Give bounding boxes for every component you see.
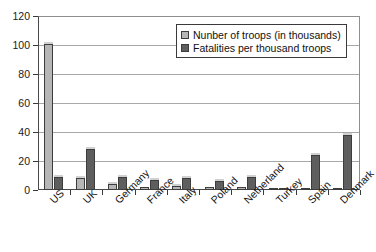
y-axis-tick-label: 20	[18, 156, 30, 166]
bar-top-cap	[108, 182, 117, 184]
y-axis: 020406080100120	[0, 0, 38, 206]
legend-item-troops: Nunber of troops (in thousands)	[181, 28, 341, 41]
bar-group	[38, 16, 70, 190]
chart-legend: Nunber of troops (in thousands) Fataliti…	[176, 24, 347, 58]
bar-top-cap	[215, 179, 224, 181]
bar-face	[86, 149, 95, 190]
bar-top-cap	[44, 42, 53, 44]
bar-top-cap	[182, 176, 191, 178]
bar-top-cap	[247, 175, 256, 177]
legend-label-troops: Nunber of troops (in thousands)	[193, 29, 341, 41]
x-axis-tick	[70, 190, 71, 195]
bar-top-cap	[343, 133, 352, 135]
bar-top-cap	[118, 175, 127, 177]
x-axis-tick	[102, 190, 103, 195]
y-axis-tick-label: 80	[18, 69, 30, 79]
bar-top-cap	[150, 178, 159, 180]
bar-top-cap	[54, 175, 63, 177]
dark-gray-swatch-icon	[181, 44, 189, 52]
bar-face	[76, 178, 85, 190]
bar-top-cap	[311, 153, 320, 155]
x-axis-labels: USUKGermanyFranceItalyPolandNetherlandTu…	[0, 196, 365, 252]
legend-label-fatalities: Fatalities per thousand troops	[193, 42, 331, 54]
bar-top-cap	[76, 176, 85, 178]
bar-group	[70, 16, 102, 190]
bar-group	[135, 16, 167, 190]
bar-troops	[76, 178, 85, 190]
y-axis-tick-label: 100	[12, 40, 30, 50]
bar-fatalities	[86, 149, 95, 190]
y-axis-tick-label: 40	[18, 127, 30, 137]
bar-troops	[44, 44, 53, 190]
x-axis-tick	[199, 190, 200, 195]
bar-face	[44, 44, 53, 190]
bar-group	[102, 16, 134, 190]
y-axis-tick-label: 120	[12, 11, 30, 21]
light-gray-swatch-icon	[181, 31, 189, 39]
y-axis-tick-label: 60	[18, 98, 30, 108]
y-axis-tick-label: 0	[24, 185, 30, 195]
legend-item-fatalities: Fatalities per thousand troops	[181, 41, 341, 54]
bar-top-cap	[86, 147, 95, 149]
